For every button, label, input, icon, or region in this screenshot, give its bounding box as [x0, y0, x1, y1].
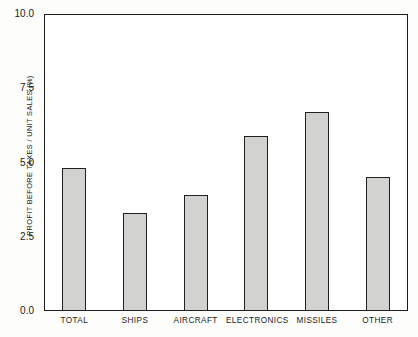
category-label-electronics: ELECTRONICS — [226, 316, 287, 325]
y-tick-label-10-0: 10.0 — [0, 9, 34, 19]
bars-layer — [44, 14, 408, 311]
category-label-aircraft: AIRCRAFT — [165, 316, 226, 325]
y-tick-label-5-0: 5.0 — [0, 158, 34, 168]
x-axis-category-labels: TOTALSHIPSAIRCRAFTELECTRONICSMISSILESOTH… — [44, 316, 408, 334]
y-tick-label-2-5: 2.5 — [0, 232, 34, 242]
bar-other — [366, 177, 390, 311]
y-tick-label-7-5: 7.5 — [0, 83, 34, 93]
bar-total — [62, 168, 86, 311]
bar-aircraft — [184, 195, 208, 311]
category-label-missiles: MISSILES — [287, 316, 348, 325]
bar-ships — [123, 213, 147, 311]
bar-missiles — [305, 112, 329, 311]
y-tick-label-0-0: 0.0 — [0, 306, 34, 316]
y-axis-tick-labels: 10.07.55.02.50.0 — [0, 0, 34, 337]
category-label-total: TOTAL — [44, 316, 105, 325]
category-label-ships: SHIPS — [105, 316, 166, 325]
category-label-other: OTHER — [347, 316, 408, 325]
bar-chart: PROFIT BEFORE TAXES / UNIT SALES (%) 10.… — [0, 0, 418, 337]
bar-electronics — [244, 136, 268, 311]
